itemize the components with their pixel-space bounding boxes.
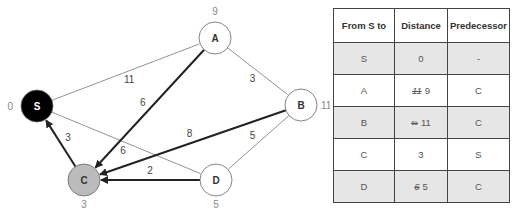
node-label: B: [297, 100, 304, 111]
distance-table: From S to Distance Predecessor S0-A119CB…: [333, 8, 510, 203]
row-predecessor: -: [448, 43, 510, 75]
edge-weight: 11: [124, 74, 135, 85]
edge-weight: 3: [65, 132, 71, 143]
node-label: S: [34, 101, 41, 112]
edge-weight: 3: [250, 73, 256, 84]
edge-A-C: [96, 50, 205, 168]
graph-diagram: 116356823 S0A9B11C3D5: [0, 0, 330, 215]
row-predecessor: C: [448, 107, 510, 139]
row-distance: 0: [395, 43, 448, 75]
row-node: D: [334, 171, 395, 203]
table-row: B∞11C: [334, 107, 510, 139]
node-distance: 5: [213, 199, 219, 210]
row-predecessor: C: [448, 171, 510, 203]
header-from: From S to: [334, 9, 395, 43]
node-distance: 3: [81, 199, 87, 210]
node-label: C: [80, 175, 87, 186]
node-distance: 11: [321, 100, 330, 111]
table-row: D65C: [334, 171, 510, 203]
node-label: A: [211, 33, 218, 44]
row-distance: 65: [395, 171, 448, 203]
row-node: C: [334, 139, 395, 171]
row-node: B: [334, 107, 395, 139]
table-row: C3S: [334, 139, 510, 171]
edge-weight: 5: [250, 130, 256, 141]
edge-weight: 6: [140, 97, 146, 108]
header-distance: Distance: [395, 9, 448, 43]
node-label: D: [212, 175, 219, 186]
edge-A-B: [228, 48, 288, 95]
row-distance: 119: [395, 75, 448, 107]
row-predecessor: C: [448, 75, 510, 107]
row-predecessor: S: [448, 139, 510, 171]
edge-weight: 2: [147, 165, 153, 176]
table-row: S0-: [334, 43, 510, 75]
row-node: A: [334, 75, 395, 107]
edge-B-D: [229, 116, 289, 169]
edge-weight: 6: [120, 145, 126, 156]
header-predecessor: Predecessor: [448, 9, 510, 43]
node-distance: 0: [7, 101, 13, 112]
edge-B-C: [100, 110, 286, 174]
row-distance: 3: [395, 139, 448, 171]
row-node: S: [334, 43, 395, 75]
table-row: A119C: [334, 75, 510, 107]
node-distance: 9: [212, 6, 218, 17]
edge-weight: 8: [187, 128, 193, 139]
edge-S-A: [52, 44, 199, 100]
edge-C-S: [46, 120, 75, 166]
row-distance: ∞11: [395, 107, 448, 139]
